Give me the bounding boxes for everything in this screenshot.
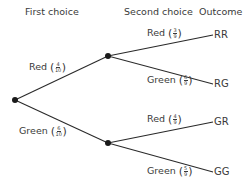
label-red-red: Red (39) bbox=[147, 27, 182, 40]
label-red-green: Green (69) bbox=[147, 74, 193, 87]
label-first-green: Green (610) bbox=[19, 125, 67, 138]
label-first-red: Red (410) bbox=[29, 61, 66, 74]
root-node bbox=[12, 97, 18, 103]
node-green bbox=[105, 140, 111, 146]
outcome-gg: GG bbox=[214, 166, 230, 177]
outcome-rr: RR bbox=[214, 29, 228, 40]
tree-diagram bbox=[0, 0, 245, 187]
fraction: 49 bbox=[173, 114, 177, 126]
fraction: 410 bbox=[55, 62, 61, 74]
fraction: 39 bbox=[173, 28, 177, 40]
node-red bbox=[105, 53, 111, 59]
outcome-gr: GR bbox=[214, 116, 229, 127]
label-green-red: Red (49) bbox=[147, 113, 182, 126]
heading-first-choice: First choice bbox=[25, 6, 79, 17]
heading-second-choice: Second choice bbox=[124, 6, 193, 17]
heading-outcome: Outcome bbox=[199, 6, 242, 17]
label-green-green: Green (59) bbox=[147, 165, 193, 178]
outcome-rg: RG bbox=[214, 78, 229, 89]
